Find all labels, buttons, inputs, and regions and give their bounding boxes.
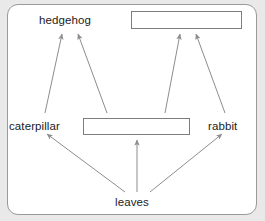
blank-answer-box-middle[interactable] <box>83 118 190 135</box>
diagram-canvas <box>7 4 257 215</box>
node-label-hedgehog: hedgehog <box>39 14 91 27</box>
blank-answer-box-top-right[interactable] <box>131 11 242 29</box>
node-label-caterpillar: caterpillar <box>9 120 60 133</box>
node-label-rabbit: rabbit <box>208 120 237 133</box>
diagram-stage: hedgehog caterpillar rabbit leaves <box>0 0 265 221</box>
node-label-leaves: leaves <box>115 196 149 209</box>
